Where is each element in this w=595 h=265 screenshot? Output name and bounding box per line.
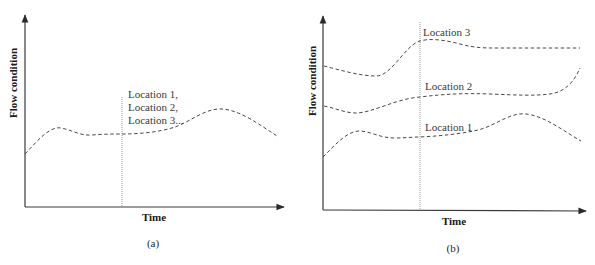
caption-a: (a): [147, 237, 160, 250]
panel-a: Location 1, Location 2, Location 3... Fl…: [7, 15, 284, 250]
figure: Location 1, Location 2, Location 3... Fl…: [0, 0, 595, 265]
x-axis-b: [323, 210, 586, 211]
location-label-3: Location 3...: [128, 114, 184, 126]
curve-label-location-1: Location 1: [425, 121, 472, 133]
y-axis-title-b: Flow condition: [306, 46, 318, 116]
x-axis-title-b: Time: [442, 215, 466, 227]
curve-label-location-3: Location 3: [423, 26, 471, 38]
x-axis-title-a: Time: [142, 211, 166, 223]
curve-label-location-2: Location 2: [425, 80, 472, 92]
panel-b: Location 3 Location 2 Location 1 Flow co…: [306, 16, 586, 255]
location-label-1: Location 1,: [128, 88, 178, 100]
y-axis-title-a: Flow condition: [7, 48, 19, 118]
location-label-2: Location 2,: [128, 101, 178, 113]
flow-curve-location-3: [324, 40, 580, 76]
caption-b: (b): [447, 242, 460, 255]
